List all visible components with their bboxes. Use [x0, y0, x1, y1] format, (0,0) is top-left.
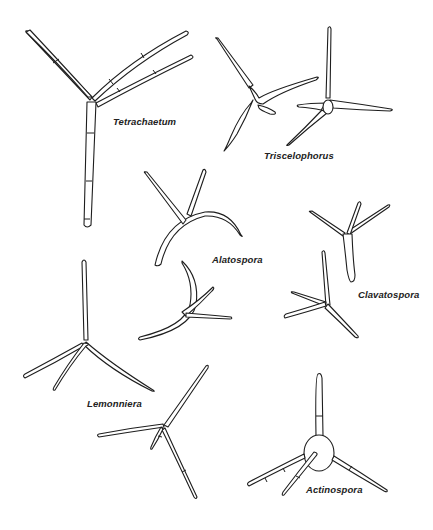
spore-drawings	[0, 0, 433, 530]
actinospora-drawing	[248, 374, 388, 496]
label-triscelophorus: Triscelophorus	[264, 150, 334, 161]
conidia-figure: Tetrachaetum Triscelophorus Alatospora C…	[0, 0, 433, 530]
unlabeled-spore-drawing	[98, 365, 209, 498]
triscelophorus-drawing	[216, 27, 393, 151]
label-alatospora: Alatospora	[212, 254, 263, 265]
label-tetrachaetum: Tetrachaetum	[113, 116, 176, 127]
lemonniera-drawing	[24, 260, 155, 391]
label-clavatospora: Clavatospora	[358, 289, 419, 300]
label-lemonniera: Lemonniera	[87, 398, 142, 409]
label-actinospora: Actinospora	[306, 484, 363, 495]
clavatospora-drawing	[284, 202, 390, 338]
